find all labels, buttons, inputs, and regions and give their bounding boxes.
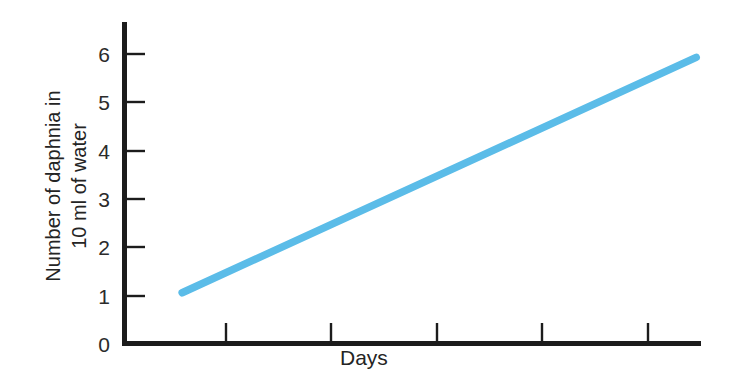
x-axis-title: Days: [340, 347, 388, 368]
y-axis-title-line-1: Number of daphnia in: [40, 46, 66, 326]
data-series-line-daphnia: [182, 57, 696, 292]
chart-container: 6 5 4 3 2 1 0 Number of daphnia in 10 ml…: [0, 0, 732, 385]
y-axis-title-line-2: 10 ml of water: [66, 46, 92, 326]
y-axis-title: Number of daphnia in 10 ml of water: [0, 0, 120, 385]
